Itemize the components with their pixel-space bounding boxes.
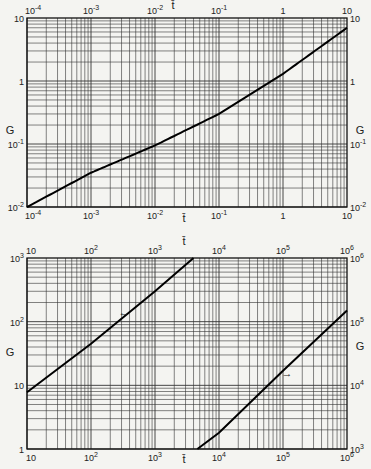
- top-x-tick-lower: 10-4: [25, 209, 41, 221]
- top-x-axis-label-upper: t̄: [171, 0, 175, 11]
- bottom-y-tick-right: 105: [350, 316, 364, 328]
- bottom-x-tick-upper: 102: [84, 244, 98, 256]
- bottom-y-tick-left: 103: [10, 252, 24, 264]
- bottom-y-axis-label-right: G: [356, 340, 365, 352]
- bottom-y-tick-left: 10: [14, 381, 24, 391]
- bottom-y-tick-left: 102: [10, 316, 24, 328]
- top-y-tick-left: 10-1: [8, 138, 24, 150]
- top-y-tick-left: 10: [14, 14, 24, 24]
- bottom-x-tick-lower: 104: [212, 451, 226, 463]
- bottom-x-tick-upper: 105: [276, 244, 290, 256]
- top-y-axis-label-left: G: [6, 124, 15, 136]
- top-x-tick-upper: 10-2: [147, 4, 163, 16]
- bottom-y-tick-right: 103: [350, 443, 364, 455]
- plot-frame: [27, 18, 347, 207]
- top-curve: [27, 28, 347, 207]
- bottom-x-tick-lower: 105: [276, 451, 290, 463]
- top-x-axis-label-lower: t̄: [182, 212, 186, 224]
- bottom-x-tick-upper: 10: [26, 246, 36, 256]
- top-x-tick-lower: 10-3: [83, 209, 99, 221]
- bottom-y-tick-left: 1: [19, 445, 24, 455]
- bottom-x-tick-upper: 103: [148, 244, 162, 256]
- plot-frame: [27, 258, 347, 449]
- bottom-y-tick-right: 106: [350, 252, 364, 264]
- top-x-tick-lower: 1: [280, 211, 285, 221]
- top-x-tick-upper: 10-3: [83, 4, 99, 16]
- top-x-tick-upper: 10-4: [25, 4, 41, 16]
- bottom-chart-panel: [27, 258, 347, 449]
- log-log-chart-figure: 10-410-410-310-310-210-210-110-111101010…: [0, 0, 371, 469]
- top-y-tick-right: 10-1: [350, 138, 366, 150]
- bottom-y-axis-label-left: G: [6, 346, 15, 358]
- top-y-tick-right: 10-2: [350, 201, 366, 213]
- top-y-tick-right: 1: [350, 77, 355, 87]
- bottom-x-tick-lower: 10: [26, 453, 36, 463]
- top-chart-panel: [27, 18, 347, 207]
- bottom-x-axis-label-lower: t̄: [182, 453, 186, 465]
- bottom-y-tick-right: 104: [350, 379, 364, 391]
- bottom-x-tick-lower: 103: [148, 451, 162, 463]
- right-arrow-icon: →: [282, 367, 293, 379]
- bottom-x-axis-label-upper: t̄: [182, 235, 186, 247]
- bottom-x-tick-lower: 102: [84, 451, 98, 463]
- top-y-tick-left: 1: [19, 77, 24, 87]
- bottom-x-tick-upper: 104: [212, 244, 226, 256]
- top-y-tick-left: 10-2: [8, 201, 24, 213]
- top-x-tick-upper: 10-1: [211, 4, 227, 16]
- top-y-tick-right: 10: [350, 14, 360, 24]
- top-x-tick-lower: 10-2: [147, 209, 163, 221]
- top-x-tick-upper: 1: [280, 6, 285, 16]
- top-x-tick-lower: 10-1: [211, 209, 227, 221]
- top-y-axis-label-right: G: [356, 124, 365, 136]
- left-arrow-icon: ←: [119, 306, 130, 318]
